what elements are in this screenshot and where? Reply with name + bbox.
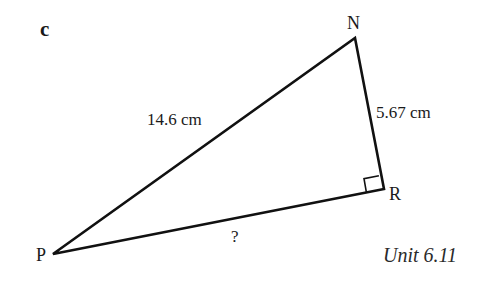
side-nr-length: 5.67 cm	[376, 104, 431, 121]
unit-reference: Unit 6.11	[383, 245, 457, 265]
part-label: c	[40, 19, 49, 40]
vertex-label-p: P	[36, 246, 46, 264]
triangle-outline	[53, 38, 384, 254]
triangle-diagram: c N R P 14.6 cm 5.67 cm ? Unit 6.11	[0, 0, 494, 283]
vertex-label-n: N	[347, 14, 360, 32]
side-pn-length: 14.6 cm	[147, 111, 202, 128]
side-pr-unknown: ?	[231, 228, 239, 245]
vertex-label-r: R	[389, 185, 401, 203]
right-triangle-pnr	[0, 0, 494, 283]
